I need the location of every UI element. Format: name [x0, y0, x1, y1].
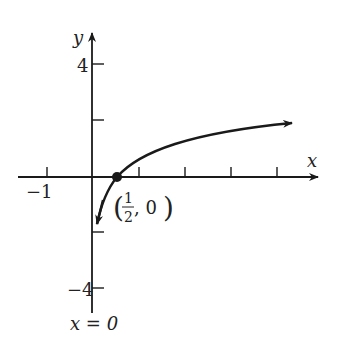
- x-ticks: [47, 167, 277, 177]
- intercept-point: [112, 172, 122, 182]
- y-tick-label-4: 4: [77, 55, 88, 76]
- y-ticks: [92, 64, 104, 288]
- y-tick-label-neg4: −4: [67, 279, 94, 300]
- x-axis-label: x: [307, 150, 317, 171]
- svg-text:, 0: , 0: [134, 197, 157, 218]
- log-curve-lower-arrow: [97, 200, 103, 224]
- svg-text:1: 1: [124, 190, 133, 206]
- graph: y 4 −4 −1 x ( 1 2 , 0 ) x = 0: [0, 0, 340, 341]
- svg-text:): ): [163, 191, 174, 224]
- asymptote-label: x = 0: [70, 313, 118, 334]
- y-axis-label: y: [72, 27, 84, 48]
- point-label: ( 1 2 , 0 ): [113, 190, 174, 225]
- svg-text:2: 2: [124, 209, 133, 225]
- x-tick-label-neg1: −1: [26, 181, 53, 202]
